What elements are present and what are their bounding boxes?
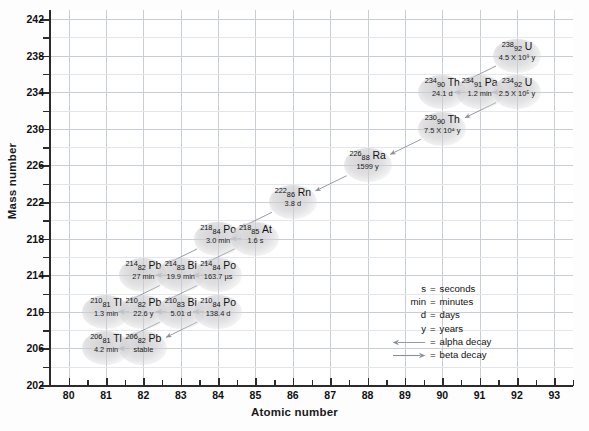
- atomic-number: 82: [138, 263, 146, 272]
- mass-number: 214: [200, 259, 212, 268]
- half-life-label: stable: [113, 346, 173, 354]
- atomic-number: 84: [212, 300, 220, 309]
- y-axis-minor-tick: [43, 294, 50, 295]
- grid-line-horizontal: [50, 330, 573, 331]
- x-axis-tick: [405, 378, 407, 386]
- arrow-right-icon: [392, 349, 430, 362]
- element-symbol: Th: [448, 114, 460, 125]
- mass-number: 218: [239, 223, 251, 232]
- y-axis-minor-tick: [43, 220, 50, 221]
- y-axis-minor-tick: [43, 147, 50, 148]
- x-axis-tick: [69, 378, 71, 386]
- x-axis-tick: [368, 378, 370, 386]
- half-life-label: 2.5 X 10⁵ y: [487, 90, 547, 98]
- atomic-number: 84: [212, 263, 220, 272]
- x-axis-minor-tick: [498, 380, 499, 386]
- mass-number: 222: [275, 186, 287, 195]
- x-axis-tick: [330, 378, 332, 386]
- legend-row: =beta decay: [392, 349, 491, 362]
- nuclide-label: 22286 Rn3.8 d: [263, 187, 323, 208]
- x-axis-minor-tick: [199, 380, 200, 386]
- mass-number: 230: [425, 113, 437, 122]
- legend-value: minutes: [440, 296, 492, 309]
- legend-value: years: [440, 323, 492, 336]
- x-axis-tick: [106, 378, 108, 386]
- y-axis-minor-tick: [43, 257, 50, 258]
- atomic-number: 90: [437, 80, 445, 89]
- mass-number: 206: [90, 332, 102, 341]
- x-axis-minor-tick: [573, 380, 574, 386]
- mass-number: 206: [126, 332, 138, 341]
- x-axis-minor-tick: [461, 380, 462, 386]
- x-axis-minor-tick: [536, 380, 537, 386]
- atomic-number: 83: [177, 300, 185, 309]
- grid-line-horizontal: [50, 37, 573, 38]
- y-axis-tick-label: 234: [4, 86, 44, 98]
- x-axis-tick: [143, 378, 145, 386]
- mass-number: 210: [90, 296, 102, 305]
- legend-row: d=days: [392, 309, 491, 322]
- grid-line-horizontal: [50, 19, 573, 20]
- x-axis-tick-label: 83: [161, 389, 201, 401]
- grid-line-horizontal: [50, 239, 573, 240]
- legend-value: beta decay: [440, 349, 492, 362]
- atomic-number: 91: [474, 80, 482, 89]
- element-symbol: U: [525, 77, 533, 88]
- nuclide-symbol: 20682 Pb: [113, 333, 173, 345]
- grid-line-vertical: [69, 10, 70, 385]
- y-axis-tick-label: 206: [4, 342, 44, 354]
- atomic-number: 86: [287, 190, 295, 199]
- legend-value: days: [440, 309, 492, 322]
- x-axis-minor-tick: [87, 380, 88, 386]
- x-axis-minor-tick: [349, 380, 350, 386]
- mass-number: 234: [462, 76, 474, 85]
- x-axis-minor-tick: [312, 380, 313, 386]
- legend-value: alpha decay: [440, 336, 492, 349]
- legend-key: y: [392, 323, 430, 336]
- grid-line-horizontal: [50, 367, 573, 368]
- atomic-number: 92: [514, 80, 522, 89]
- y-axis-minor-tick: [43, 367, 50, 368]
- half-life-label: 1.6 s: [225, 237, 285, 245]
- x-axis-tick-label: 86: [273, 389, 313, 401]
- y-axis-minor-tick: [43, 330, 50, 331]
- nuclide-symbol: 21885 At: [225, 224, 285, 236]
- grid-line-horizontal: [50, 257, 573, 258]
- atomic-number: 90: [437, 117, 445, 126]
- atomic-number: 83: [177, 263, 185, 272]
- grid-line-vertical: [330, 10, 331, 385]
- x-axis-minor-tick: [274, 380, 275, 386]
- mass-number: 234: [425, 76, 437, 85]
- grid-line-horizontal: [50, 147, 573, 148]
- nuclide-label: 23492 U2.5 X 10⁵ y: [487, 77, 547, 98]
- nuclide-symbol: 22286 Rn: [263, 187, 323, 199]
- legend: s=secondsmin=minutesd=daysy=years=alpha …: [392, 283, 491, 362]
- nuclide-label: 21084 Po138.4 d: [188, 297, 248, 318]
- legend-key: d: [392, 309, 430, 322]
- y-axis-tick-label: 218: [4, 233, 44, 245]
- element-symbol: Pb: [149, 333, 162, 344]
- legend-row: y=years: [392, 323, 491, 336]
- x-axis-tick: [554, 378, 556, 386]
- x-axis-tick-label: 90: [422, 389, 462, 401]
- nuclide-symbol: 23492 U: [487, 77, 547, 89]
- nuclide-label: 22688 Ra1599 y: [338, 150, 398, 171]
- element-symbol: Po: [223, 297, 236, 308]
- mass-number: 234: [502, 76, 514, 85]
- y-axis-tick-label: 202: [4, 379, 44, 391]
- x-axis-tick-label: 88: [348, 389, 388, 401]
- atomic-number: 81: [102, 300, 110, 309]
- legend-equals: =: [430, 296, 440, 309]
- half-life-label: 138.4 d: [188, 310, 248, 318]
- x-axis-minor-tick: [386, 380, 387, 386]
- half-life-label: 1599 y: [338, 163, 398, 171]
- legend-equals: =: [430, 336, 440, 349]
- x-axis-title: Atomic number: [0, 406, 589, 418]
- y-axis-tick-label: 210: [4, 306, 44, 318]
- x-axis-minor-tick: [162, 380, 163, 386]
- y-axis-minor-tick: [43, 37, 50, 38]
- legend-key: min: [392, 296, 430, 309]
- nuclide-label: 23090 Th7.5 X 10⁴ y: [412, 114, 472, 135]
- element-symbol: Ra: [372, 151, 385, 162]
- grid-line-vertical: [554, 10, 555, 385]
